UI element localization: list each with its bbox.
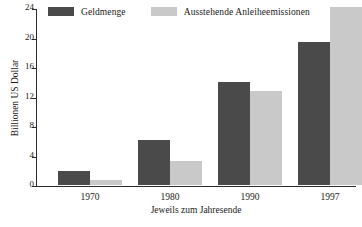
y-tick-label: 24 bbox=[14, 3, 34, 12]
x-tick-label-1980: 1980 bbox=[138, 192, 202, 202]
bar-group-1980: 1980 bbox=[138, 8, 202, 185]
y-tick-20: 20 bbox=[36, 39, 37, 40]
y-tick-12: 12 bbox=[36, 98, 37, 99]
x-axis-line bbox=[36, 186, 356, 187]
y-tick-4: 4 bbox=[36, 157, 37, 158]
y-tick-16: 16 bbox=[36, 68, 37, 69]
bar-group-1970: 1970 bbox=[58, 8, 122, 185]
plot-area: 04812162024 1970198019901997 bbox=[36, 9, 356, 186]
y-tick-label: 0 bbox=[14, 180, 34, 189]
bar-1970-series-2 bbox=[90, 180, 122, 185]
x-tick-label-1990: 1990 bbox=[218, 192, 282, 202]
x-tick-label-1970: 1970 bbox=[58, 192, 122, 202]
y-axis-title: Billionen US Dollar bbox=[0, 0, 8, 38]
y-axis-title-text: Billionen US Dollar bbox=[10, 38, 20, 158]
x-tick-label-1997: 1997 bbox=[298, 192, 362, 202]
y-tick-24: 24 bbox=[36, 9, 37, 10]
x-axis-title: Jeweils zum Jahresende bbox=[36, 205, 356, 216]
bar-1990-series-2 bbox=[250, 91, 282, 185]
bar-1997-series-1 bbox=[298, 42, 330, 185]
bar-1980-series-1 bbox=[138, 140, 170, 185]
y-tick-0: 0 bbox=[36, 186, 37, 187]
bar-1990-series-1 bbox=[218, 82, 250, 185]
bar-group-1990: 1990 bbox=[218, 8, 282, 185]
y-tick-8: 8 bbox=[36, 127, 37, 128]
bar-1997-series-2 bbox=[330, 7, 362, 185]
bar-1970-series-1 bbox=[58, 171, 90, 185]
bar-1980-series-2 bbox=[170, 161, 202, 185]
bar-group-1997: 1997 bbox=[298, 8, 362, 185]
